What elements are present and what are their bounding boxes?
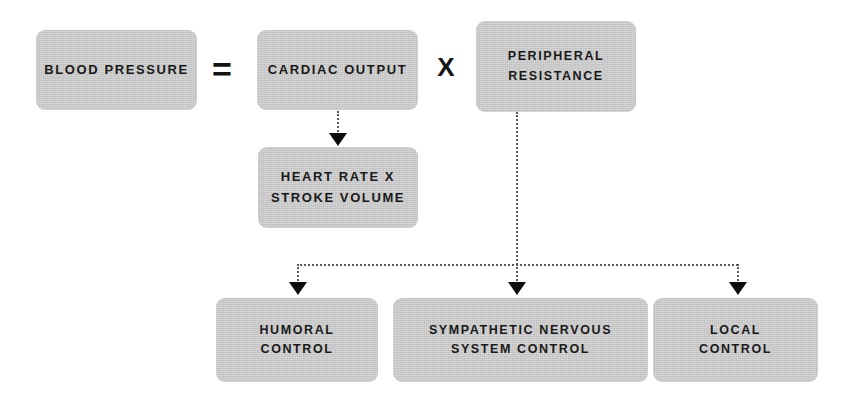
connector-cardiac-to-heartrate-arrow — [329, 133, 347, 146]
node-peripheral-resistance-label-line1: PERIPHERAL — [508, 47, 605, 66]
node-peripheral-resistance-label-line2: RESISTANCE — [508, 67, 605, 86]
node-peripheral-resistance[interactable]: PERIPHERAL RESISTANCE — [476, 21, 636, 112]
node-local-control[interactable]: LOCAL CONTROL — [653, 298, 818, 382]
node-heart-rate-stroke-volume[interactable]: HEART RATE X STROKE VOLUME — [258, 147, 418, 228]
node-heart-rate-label-line1: HEART RATE X — [271, 167, 405, 187]
connector-peripheral-branch-bar — [297, 264, 738, 266]
connector-humoral-arrow — [289, 282, 307, 295]
equals-operator: = — [198, 52, 246, 86]
node-humoral-control-label-line2: CONTROL — [259, 340, 334, 359]
node-heart-rate-label-line2: STROKE VOLUME — [271, 188, 405, 208]
multiply-operator: X — [424, 54, 468, 80]
node-humoral-control[interactable]: HUMORAL CONTROL — [216, 298, 378, 382]
connector-peripheral-trunk-line — [516, 112, 518, 284]
node-blood-pressure[interactable]: BLOOD PRESSURE — [36, 30, 197, 110]
diagram-canvas: BLOOD PRESSURE = CARDIAC OUTPUT X PERIPH… — [0, 0, 862, 411]
node-local-control-label-line2: CONTROL — [699, 340, 772, 359]
node-local-control-label-line1: LOCAL — [699, 321, 772, 340]
node-cardiac-output-label: CARDIAC OUTPUT — [268, 60, 407, 80]
node-blood-pressure-label: BLOOD PRESSURE — [44, 60, 188, 80]
node-cardiac-output[interactable]: CARDIAC OUTPUT — [257, 30, 418, 110]
node-sympathetic-control-label-line1: SYMPATHETIC NERVOUS — [429, 321, 612, 340]
connector-branch-right-line — [737, 264, 739, 284]
connector-branch-left-line — [297, 264, 299, 284]
connector-local-arrow — [729, 282, 747, 295]
node-humoral-control-label-line1: HUMORAL — [259, 321, 334, 340]
node-sympathetic-control-label-line2: SYSTEM CONTROL — [429, 340, 612, 359]
connector-sympathetic-arrow — [508, 282, 526, 295]
node-sympathetic-nervous-system-control[interactable]: SYMPATHETIC NERVOUS SYSTEM CONTROL — [393, 298, 648, 382]
connector-cardiac-to-heartrate-line — [337, 111, 339, 135]
